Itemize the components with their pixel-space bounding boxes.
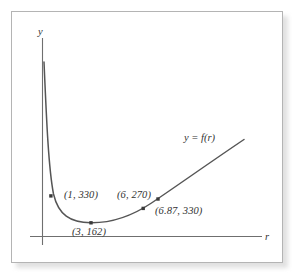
y-axis-label: y xyxy=(38,27,43,38)
point-label-2: (3, 162) xyxy=(72,227,106,238)
data-point-marker xyxy=(49,194,52,197)
figure-page: y r (1, 330) (3, 162) (6, 270) (6.87, 33… xyxy=(0,0,294,277)
point-label-4: (6.87, 330) xyxy=(155,206,202,217)
data-point-marker xyxy=(156,197,159,200)
data-point-marker xyxy=(142,207,145,210)
function-equation-label: y = f(r) xyxy=(184,133,215,144)
graph-plot xyxy=(0,0,294,277)
point-label-3: (6, 270) xyxy=(117,190,151,201)
data-point-marker xyxy=(89,221,92,224)
point-label-1: (1, 330) xyxy=(64,190,98,201)
x-axis-label: r xyxy=(265,232,269,243)
